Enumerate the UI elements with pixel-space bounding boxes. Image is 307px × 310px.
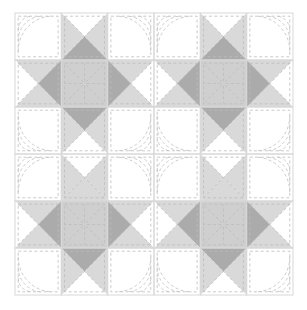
patch-square (247, 13, 293, 60)
quilt-cell-r2-c0 (15, 107, 61, 154)
quilt-cell-r2-c2 (108, 107, 154, 154)
quilt-cell-r0-c0 (15, 13, 61, 60)
quilt-cell-r5-c2 (108, 248, 154, 295)
quilt-cell-r3-c5 (247, 154, 293, 201)
quilt-cell-r3-c2 (108, 154, 154, 201)
quilt-cell-r0-c2 (108, 13, 154, 60)
patch-square (247, 248, 293, 295)
patch-square (15, 248, 61, 295)
quilt-cell-r3-c3 (154, 154, 200, 201)
patch-square (154, 248, 200, 295)
quilt-cell-r1-c4 (200, 60, 246, 107)
patch-star-center (61, 60, 107, 107)
patch-square (15, 154, 61, 201)
quilt-cell-r5-c0 (15, 248, 61, 295)
quilt-cell-r2-c3 (154, 107, 200, 154)
quilt-cell-r5-c3 (154, 248, 200, 295)
patch-square (108, 248, 154, 295)
patch-square (154, 13, 200, 60)
patch-square (15, 107, 61, 154)
patch-square (108, 13, 154, 60)
patch-square (108, 107, 154, 154)
patch-square (108, 154, 154, 201)
quilt-cell-r4-c1 (61, 201, 107, 248)
quilt-cell-r4-c4 (200, 201, 246, 248)
quilt-cell-r1-c1 (61, 60, 107, 107)
patch-square (247, 154, 293, 201)
quilt-cell-r0-c3 (154, 13, 200, 60)
quilt-cell-r0-c5 (247, 13, 293, 60)
patch-square (154, 107, 200, 154)
patch-star-center (61, 201, 107, 248)
patch-star-center (200, 60, 246, 107)
quilt-block-svg (0, 0, 307, 310)
patch-square (154, 154, 200, 201)
patch-square (247, 107, 293, 154)
patch-star-center (200, 201, 246, 248)
quilt-cell-r5-c5 (247, 248, 293, 295)
quilt-diagram-canvas (0, 0, 307, 310)
quilt-cell-r3-c0 (15, 154, 61, 201)
quilt-cell-r2-c5 (247, 107, 293, 154)
patch-square (15, 13, 61, 60)
